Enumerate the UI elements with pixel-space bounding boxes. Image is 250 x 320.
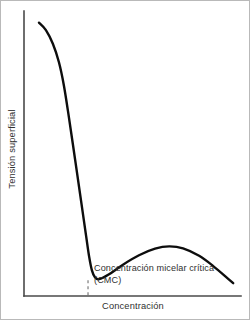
x-axis-label-text: Concentración bbox=[1, 301, 250, 311]
cmc-annotation-line-1: Concentración micelar crítica bbox=[94, 263, 214, 273]
chart-figure: Tensión superficial Concentración Concen… bbox=[0, 0, 250, 320]
surface-tension-curve bbox=[39, 23, 233, 283]
cmc-annotation-line-2: (CMC) bbox=[94, 275, 214, 287]
cmc-annotation: Concentración micelar crítica (CMC) bbox=[94, 263, 214, 286]
y-axis-label: Tensión superficial bbox=[1, 1, 23, 296]
y-axis-label-text: Tensión superficial bbox=[7, 109, 17, 188]
